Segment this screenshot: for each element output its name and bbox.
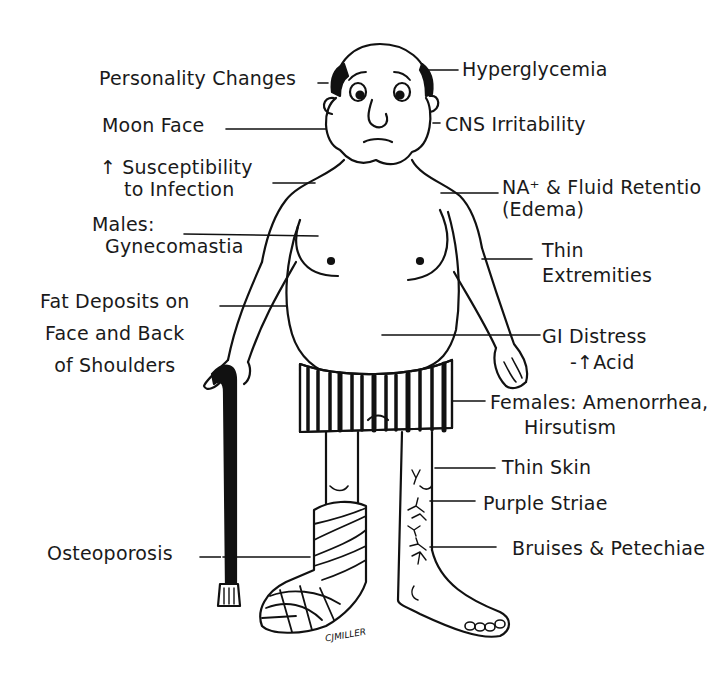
striped-shorts [300,360,452,432]
diagram-canvas: Personality Changes Moon Face ↑ Suscepti… [0,0,724,682]
label-line: to Infection [100,178,253,200]
label-na-fluid-retention: NA⁺ & Fluid Retentio (Edema) [502,176,701,220]
label-line: Females: Amenorrhea, [490,390,708,415]
label-males-gynecomastia: Males: Gynecomastia [92,213,244,257]
label-line: Hirsutism [490,415,708,440]
label-line: Thin [542,238,652,263]
right-leg [398,432,509,637]
right-arm [454,248,527,388]
label-line: ↑ Susceptibility [100,156,253,178]
label-line: Males: [92,213,244,235]
label-line: Fat Deposits on [40,285,190,317]
label-line: of Shoulders [40,349,190,381]
label-personality-changes: Personality Changes [99,67,296,89]
label-purple-striae: Purple Striae [483,492,608,514]
label-line: Extremities [542,263,652,288]
left-leg-cast [260,432,366,633]
label-gi-distress: GI Distress -↑Acid [542,323,647,375]
label-hyperglycemia: Hyperglycemia [462,58,608,80]
label-thin-extremities: Thin Extremities [542,238,652,288]
leader-lines [184,70,540,557]
label-line: NA⁺ & Fluid Retentio [502,176,701,198]
label-females-amenorrhea-hirsutism: Females: Amenorrhea, Hirsutism [490,390,708,440]
label-cns-irritability: CNS Irritability [445,113,586,135]
label-susceptibility-to-infection: ↑ Susceptibility to Infection [100,156,253,200]
striae-marks [408,470,426,600]
label-line: (Edema) [502,198,701,220]
label-line: Gynecomastia [92,235,244,257]
label-fat-deposits: Fat Deposits on Face and Back of Shoulde… [40,285,190,381]
label-osteoporosis: Osteoporosis [47,542,173,564]
cane [212,366,240,606]
label-moon-face: Moon Face [102,114,205,136]
label-line: GI Distress [542,323,647,349]
label-thin-skin: Thin Skin [502,456,591,478]
label-line: -↑Acid [542,349,647,375]
head [324,44,438,164]
label-bruises-petechiae: Bruises & Petechiae [512,537,705,559]
label-line: Face and Back [40,317,190,349]
